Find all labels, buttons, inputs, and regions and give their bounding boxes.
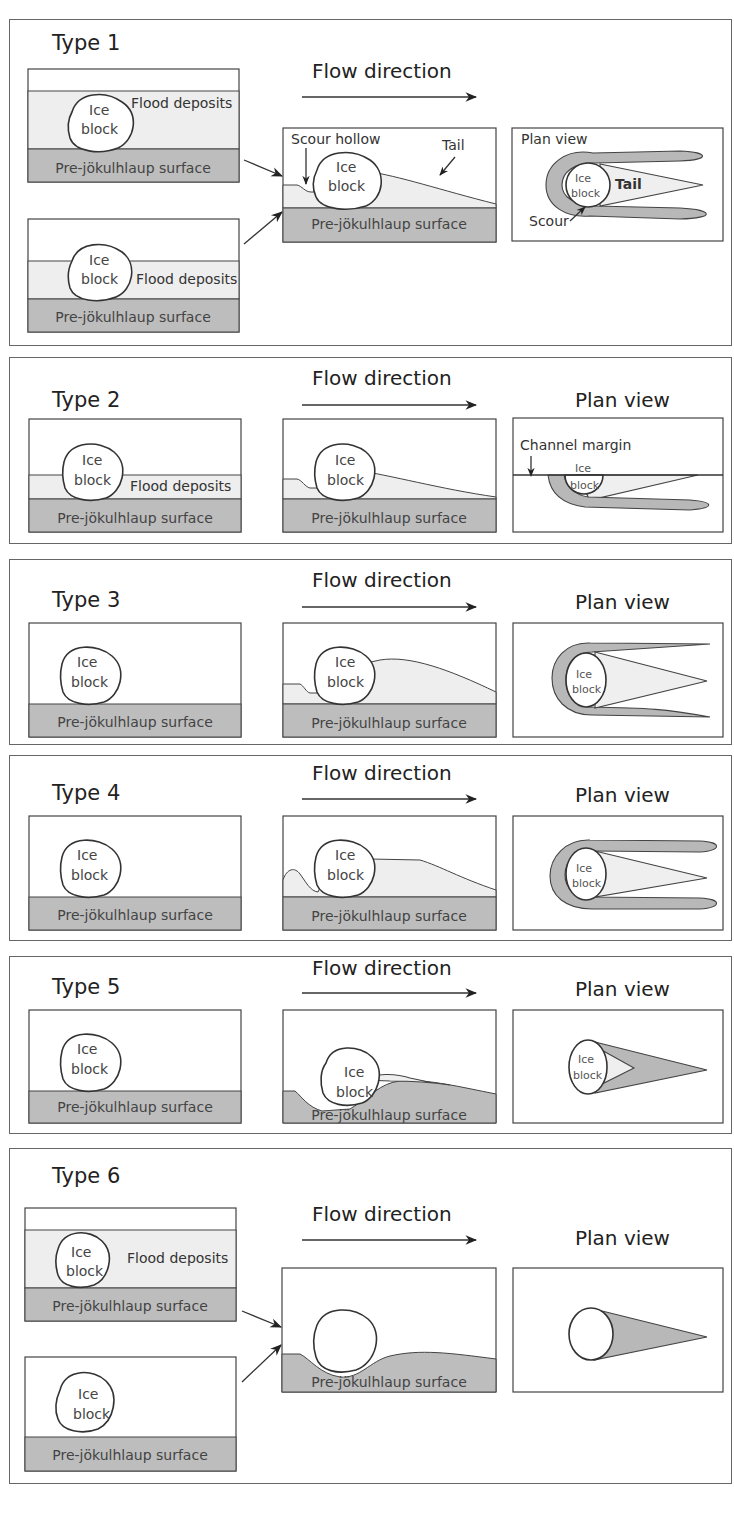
flow-direction-label: Flow direction <box>312 366 452 390</box>
svg-text:block: block <box>571 187 601 200</box>
flood-deposits-label: Flood deposits <box>136 271 237 287</box>
arrow-icon <box>244 212 282 244</box>
svg-text:block: block <box>71 1061 109 1077</box>
svg-text:Ice: Ice <box>335 654 355 670</box>
svg-text:Ice: Ice <box>77 1041 97 1057</box>
svg-text:Ice: Ice <box>82 452 102 468</box>
svg-text:block: block <box>327 674 365 690</box>
svg-text:Ice: Ice <box>71 1244 91 1260</box>
plan-view: Ice block <box>513 1010 723 1123</box>
flood-deposits-label: Flood deposits <box>130 478 231 494</box>
flood-deposits-label: Flood deposits <box>127 1250 228 1266</box>
surface-label: Pre-jökulhlaup surface <box>311 715 467 731</box>
svg-text:block: block <box>74 472 112 488</box>
panel-type-4: Type 4 Flow direction Plan view Ice bloc… <box>9 755 732 941</box>
section-after: Ice block Pre-jökulhlaup surface <box>283 623 496 737</box>
svg-text:Ice: Ice <box>78 1386 98 1402</box>
type-4-diagram: Type 4 Flow direction Plan view Ice bloc… <box>10 756 733 942</box>
surface-label: Pre-jökulhlaup surface <box>311 908 467 924</box>
svg-text:Ice: Ice <box>576 862 592 875</box>
type-1-diagram: Type 1 Ice block Flood deposits Pre-jöku… <box>10 20 733 347</box>
panel-type-6: Type 6 Flow direction Plan view Ice bloc… <box>9 1148 732 1484</box>
surface-label: Pre-jökulhlaup surface <box>57 510 213 526</box>
surface-label: Pre-jökulhlaup surface <box>55 309 211 325</box>
plan-view-label: Plan view <box>575 388 670 412</box>
surface-label: Pre-jökulhlaup surface <box>311 1107 467 1123</box>
type-2-diagram: Type 2 Flow direction Plan view Ice bloc… <box>10 358 733 545</box>
section-after: Ice block Pre-jökulhlaup surface <box>283 1010 496 1123</box>
panel-type-5: Type 5 Flow direction Plan view Ice bloc… <box>9 956 732 1134</box>
plan-view-label: Plan view <box>575 977 670 1001</box>
svg-text:Ice: Ice <box>575 172 591 185</box>
type-6-diagram: Type 6 Flow direction Plan view Ice bloc… <box>10 1149 733 1485</box>
svg-text:Ice: Ice <box>89 252 109 268</box>
section-after: Ice block Pre-jökulhlaup surface <box>283 816 496 930</box>
svg-text:block: block <box>81 121 119 137</box>
type-3-diagram: Type 3 Flow direction Plan view Ice bloc… <box>10 560 733 746</box>
surface-label: Pre-jökulhlaup surface <box>311 1374 467 1390</box>
panel-type-1: Type 1 Ice block Flood deposits Pre-jöku… <box>9 19 732 346</box>
svg-text:Ice: Ice <box>335 452 355 468</box>
surface-label: Pre-jökulhlaup surface <box>52 1298 208 1314</box>
type-label: Type 1 <box>51 31 120 55</box>
svg-text:block: block <box>572 683 602 696</box>
svg-text:Ice: Ice <box>335 847 355 863</box>
arrow-icon <box>242 1311 281 1327</box>
type-label: Type 5 <box>51 975 120 999</box>
flow-direction-label: Flow direction <box>312 1202 452 1226</box>
surface-label: Pre-jökulhlaup surface <box>52 1447 208 1463</box>
svg-text:block: block <box>570 479 600 492</box>
svg-text:Ice: Ice <box>77 654 97 670</box>
section-before: Ice block Pre-jökulhlaup surface <box>29 816 241 930</box>
flow-direction-label: Flow direction <box>312 568 452 592</box>
type-label: Type 6 <box>51 1164 120 1188</box>
svg-text:Ice: Ice <box>336 159 356 175</box>
plan-view-label: Plan view <box>521 131 587 147</box>
section-before: Ice block Pre-jökulhlaup surface <box>29 1010 241 1123</box>
section-bare-bottom: Ice block Pre-jökulhlaup surface <box>25 1357 236 1471</box>
svg-text:block: block <box>572 877 602 890</box>
panel-type-3: Type 3 Flow direction Plan view Ice bloc… <box>9 559 732 745</box>
svg-text:block: block <box>327 867 365 883</box>
scour-label: Scour <box>529 213 569 229</box>
plan-view <box>513 1268 723 1392</box>
surface-label: Pre-jökulhlaup surface <box>57 907 213 923</box>
surface-label: Pre-jökulhlaup surface <box>55 160 211 176</box>
section-after: Ice block Pre-jökulhlaup surface <box>283 419 496 532</box>
flow-direction-label: Flow direction <box>312 956 452 980</box>
surface-label: Pre-jökulhlaup surface <box>311 216 467 232</box>
tail-label: Tail <box>441 137 465 153</box>
svg-text:Ice: Ice <box>575 462 591 475</box>
plan-view-label: Plan view <box>575 590 670 614</box>
section-flood-buried-top: Ice block Flood deposits Pre-jökulhlaup … <box>25 1208 236 1321</box>
svg-text:block: block <box>327 472 365 488</box>
plan-view-label: Plan view <box>575 1226 670 1250</box>
section-flood-buried-top: Ice block Flood deposits Pre-jökulhlaup … <box>28 69 239 182</box>
plan-view-label: Plan view <box>575 783 670 807</box>
arrow-icon <box>244 160 282 176</box>
panel-type-2: Type 2 Flow direction Plan view Ice bloc… <box>9 357 732 544</box>
type-label: Type 2 <box>51 388 120 412</box>
svg-text:Ice: Ice <box>576 668 592 681</box>
flow-direction-label: Flow direction <box>312 761 452 785</box>
svg-text:block: block <box>71 674 109 690</box>
svg-text:block: block <box>71 867 109 883</box>
arrow-icon <box>242 1345 281 1382</box>
svg-text:Ice: Ice <box>344 1064 364 1080</box>
type-5-diagram: Type 5 Flow direction Plan view Ice bloc… <box>10 957 733 1135</box>
flood-deposits-label: Flood deposits <box>131 95 232 111</box>
surface-label: Pre-jökulhlaup surface <box>57 714 213 730</box>
svg-text:block: block <box>81 271 119 287</box>
surface-label: Pre-jökulhlaup surface <box>311 510 467 526</box>
svg-text:block: block <box>73 1406 111 1422</box>
plan-view: Ice block <box>513 816 723 930</box>
plan-view: Channel margin Ice block <box>513 418 723 532</box>
svg-text:block: block <box>573 1069 603 1082</box>
svg-text:Ice: Ice <box>578 1053 594 1066</box>
section-before: Ice block Pre-jökulhlaup surface <box>29 623 241 737</box>
section-flood-partial-bottom: Ice block Flood deposits Pre-jökulhlaup … <box>28 219 239 332</box>
surface-label: Pre-jökulhlaup surface <box>57 1099 213 1115</box>
svg-text:Ice: Ice <box>89 102 109 118</box>
plan-view: Ice block <box>513 623 723 737</box>
channel-margin-label: Channel margin <box>520 437 631 453</box>
